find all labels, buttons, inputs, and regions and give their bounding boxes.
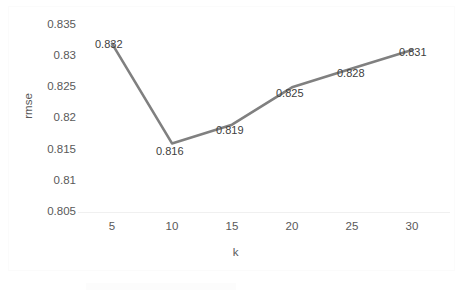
point-value-label: 0.819 — [216, 125, 244, 136]
x-tick-label: 15 — [226, 221, 239, 233]
point-value-label: 0.825 — [276, 88, 304, 99]
series-line — [112, 44, 412, 144]
point-value-label: 0.816 — [156, 146, 184, 157]
x-axis-title: k — [0, 246, 471, 258]
point-value-label: 0.828 — [337, 68, 365, 79]
x-tick-label: 5 — [109, 221, 115, 233]
point-value-label: 0.831 — [399, 47, 427, 58]
x-tick-label: 20 — [286, 221, 299, 233]
x-tick-label: 10 — [166, 221, 179, 233]
point-value-label: 0.832 — [95, 39, 123, 50]
x-tick-label: 30 — [406, 221, 419, 233]
x-tick-label: 25 — [346, 221, 359, 233]
line-chart: rmse 0.835 0.83 0.825 0.82 0.815 0.81 0.… — [0, 0, 471, 295]
